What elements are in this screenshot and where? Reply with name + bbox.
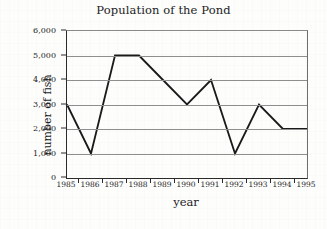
x-tick-label: 1987 — [104, 180, 123, 189]
x-tick-mark — [246, 179, 247, 183]
y-tick-label: 2,000 — [33, 124, 56, 133]
gridline — [67, 154, 307, 155]
y-tick-label: 1,000 — [33, 148, 56, 157]
x-tick-label: 1986 — [80, 180, 99, 189]
plot-area — [66, 30, 308, 179]
x-tick-label: 1990 — [176, 180, 195, 189]
x-tick-label: 1994 — [272, 180, 291, 189]
x-tick-mark — [150, 179, 151, 183]
x-tick-mark — [174, 179, 175, 183]
y-axis-title: number of fish — [41, 74, 54, 155]
y-tick-label: 3,000 — [33, 99, 56, 108]
y-tick-label: 4,000 — [33, 75, 56, 84]
x-tick-label: 1989 — [152, 180, 171, 189]
gridline — [67, 129, 307, 130]
x-tick-mark — [78, 179, 79, 183]
x-tick-label: 1992 — [224, 180, 243, 189]
x-tick-mark — [102, 179, 103, 183]
x-axis-title: year — [66, 195, 306, 209]
x-tick-label: 1988 — [128, 180, 147, 189]
x-tick-label: 1991 — [200, 180, 219, 189]
gridline — [67, 105, 307, 106]
y-axis: number of fish 01,0002,0003,0004,0005,00… — [0, 0, 66, 229]
y-tick-label: 6,000 — [33, 26, 56, 35]
x-tick-label: 1995 — [296, 180, 315, 189]
x-tick-mark — [270, 179, 271, 183]
gridline — [67, 80, 307, 81]
gridline — [67, 56, 307, 57]
x-tick-mark — [294, 179, 295, 183]
y-tick-label: 0 — [51, 173, 56, 182]
x-tick-label: 1993 — [248, 180, 267, 189]
line-chart-figure: Population of the Pond number of fish 01… — [0, 0, 327, 229]
x-tick-mark — [222, 179, 223, 183]
x-tick-mark — [126, 179, 127, 183]
x-axis: 1985198619871988198919901991199219931994… — [66, 179, 306, 192]
x-tick-label: 1985 — [56, 180, 75, 189]
x-tick-mark — [198, 179, 199, 183]
y-tick-label: 5,000 — [33, 50, 56, 59]
